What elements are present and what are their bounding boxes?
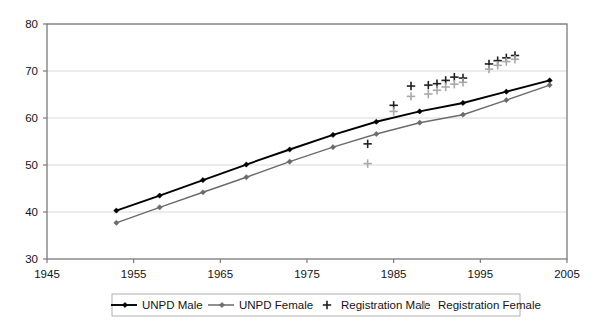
y-tick-label: 50 [25, 159, 38, 171]
x-tick-label: 1955 [121, 268, 147, 280]
x-tick-label: 1965 [208, 268, 234, 280]
life-expectancy-line-chart: 304050607080 194519551965197519851995200… [0, 0, 608, 331]
x-tick-label: 1995 [468, 268, 494, 280]
x-tick-label: 1945 [34, 268, 60, 280]
legend-label: Registration Female [438, 299, 541, 311]
legend-label: UNPD Male [142, 299, 203, 311]
y-tick-label: 60 [25, 112, 38, 124]
x-tick-label: 1975 [294, 268, 320, 280]
x-tick-label: 2005 [554, 268, 580, 280]
x-tick-label: 1985 [381, 268, 407, 280]
y-tick-label: 30 [25, 253, 38, 265]
legend-label: UNPD Female [239, 299, 313, 311]
y-tick-label: 80 [25, 18, 38, 30]
legend-item-registration-female[interactable]: Registration Female [420, 299, 541, 311]
y-tick-label: 40 [25, 206, 38, 218]
chart-container: 304050607080 194519551965197519851995200… [0, 0, 608, 331]
y-tick-label: 70 [25, 65, 38, 77]
legend-label: Registration Male [341, 299, 430, 311]
